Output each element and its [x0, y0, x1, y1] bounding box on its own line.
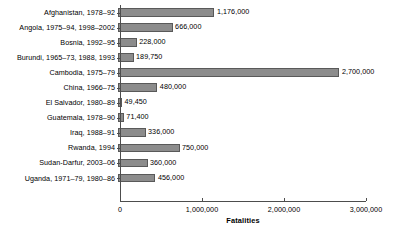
bar-value-label: 1,176,000 [214, 8, 249, 17]
bar-value-label: 666,000 [173, 23, 202, 32]
y-axis-line [120, 5, 121, 201]
bar-track: 480,000 [118, 80, 399, 95]
category-label: Uganda, 1971–79, 1980–86 [0, 174, 118, 183]
bar-row: Bosnia, 1992–95228,000 [0, 35, 399, 50]
x-axis-tick-label: 3,000,000 [350, 205, 382, 214]
x-axis-tick [366, 198, 367, 201]
category-label: Burundi, 1965–73, 1988, 1993 [0, 53, 118, 62]
fatalities-bar-chart: Afghanistan, 1978–921,176,000Angola, 197… [0, 0, 399, 240]
bar-value-label: 360,000 [148, 159, 177, 168]
category-label: Angola, 1975–94, 1998–2002 [0, 23, 118, 32]
plot-area: Afghanistan, 1978–921,176,000Angola, 197… [0, 0, 399, 240]
bar [118, 23, 173, 32]
bar-value-label: 456,000 [155, 174, 184, 183]
y-axis-tick [117, 163, 120, 164]
x-axis-title: Fatalities [226, 216, 260, 225]
bar [118, 144, 180, 153]
bar-value-label: 2,700,000 [339, 68, 374, 77]
y-axis-tick [117, 103, 120, 104]
bar-track: 666,000 [118, 20, 399, 35]
bar-value-label: 750,000 [180, 144, 209, 153]
category-label: China, 1966–75 [0, 83, 118, 92]
x-axis-tick [202, 198, 203, 201]
bar-track: 750,000 [118, 140, 399, 155]
bar-track: 49,450 [118, 95, 399, 110]
bar-value-label: 49,450 [122, 98, 147, 107]
y-axis-tick [117, 118, 120, 119]
category-label: Cambodia, 1975–79 [0, 68, 118, 77]
category-label: Guatemala, 1978–90 [0, 113, 118, 122]
bar-row: Rwanda, 1994750,000 [0, 140, 399, 155]
y-axis-tick [117, 28, 120, 29]
bar-track: 228,000 [118, 35, 399, 50]
bar [118, 128, 146, 137]
bar-row: Uganda, 1971–79, 1980–86456,000 [0, 171, 399, 186]
bar-track: 360,000 [118, 155, 399, 170]
bar-row: Afghanistan, 1978–921,176,000 [0, 5, 399, 20]
y-axis-tick [117, 58, 120, 59]
y-axis-tick [117, 43, 120, 44]
y-axis-tick [117, 88, 120, 89]
bar-track: 1,176,000 [118, 5, 399, 20]
bar-row: Angola, 1975–94, 1998–2002666,000 [0, 20, 399, 35]
x-axis-tick-label: 0 [118, 205, 122, 214]
bar-track: 71,400 [118, 110, 399, 125]
y-axis-tick [117, 73, 120, 74]
y-axis-tick [117, 148, 120, 149]
category-label: Sudan-Darfur, 2003–06 [0, 158, 118, 167]
x-axis-tick [284, 198, 285, 201]
bar-value-label: 480,000 [157, 83, 186, 92]
y-axis-tick [117, 13, 120, 14]
bar-rows: Afghanistan, 1978–921,176,000Angola, 197… [0, 5, 399, 186]
bar-track: 336,000 [118, 125, 399, 140]
x-axis-line [120, 201, 366, 202]
category-label: Afghanistan, 1978–92 [0, 8, 118, 17]
x-axis-tick [120, 198, 121, 201]
bar [118, 174, 155, 183]
bar [118, 8, 214, 17]
y-axis-tick [117, 133, 120, 134]
category-label: Bosnia, 1992–95 [0, 38, 118, 47]
bar-value-label: 189,750 [134, 53, 163, 62]
bar-value-label: 228,000 [137, 38, 166, 47]
bar [118, 68, 339, 77]
bar-row: China, 1966–75480,000 [0, 80, 399, 95]
bar-value-label: 336,000 [146, 128, 175, 137]
bar-row: Iraq, 1988–91336,000 [0, 125, 399, 140]
category-label: El Salvador, 1980–89 [0, 98, 118, 107]
bar-row: Sudan-Darfur, 2003–06360,000 [0, 155, 399, 170]
bar-track: 189,750 [118, 50, 399, 65]
y-axis-tick [117, 178, 120, 179]
bar-track: 456,000 [118, 171, 399, 186]
bar-value-label: 71,400 [124, 113, 149, 122]
bar [118, 83, 157, 92]
bar-row: Burundi, 1965–73, 1988, 1993189,750 [0, 50, 399, 65]
bar-track: 2,700,000 [118, 65, 399, 80]
x-axis-tick-label: 1,000,000 [186, 205, 218, 214]
category-label: Iraq, 1988–91 [0, 128, 118, 137]
bar [118, 159, 148, 168]
x-axis-tick-label: 2,000,000 [268, 205, 300, 214]
bar-row: Guatemala, 1978–9071,400 [0, 110, 399, 125]
bar-row: El Salvador, 1980–8949,450 [0, 95, 399, 110]
bar-row: Cambodia, 1975–792,700,000 [0, 65, 399, 80]
category-label: Rwanda, 1994 [0, 143, 118, 152]
